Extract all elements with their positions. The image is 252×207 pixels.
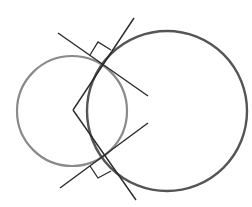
upper-right-angle-mark xyxy=(90,42,111,55)
lower-right-angle-mark xyxy=(90,166,111,178)
small-circle xyxy=(17,56,127,166)
circles-group xyxy=(17,31,247,191)
geometry-diagram xyxy=(0,0,252,207)
large-circle xyxy=(87,31,247,191)
